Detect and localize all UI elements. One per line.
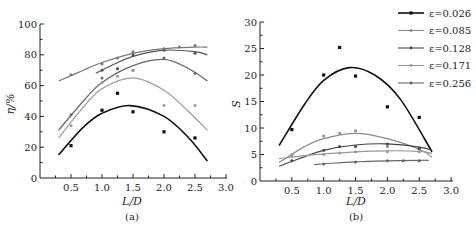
data-point <box>402 159 405 162</box>
legend-item: ε=0.171 <box>398 60 471 71</box>
data-point <box>386 105 389 108</box>
data-point <box>354 74 357 77</box>
legend-label: ε=0.026 <box>429 8 471 19</box>
data-point <box>418 159 421 162</box>
data-point <box>101 76 104 79</box>
data-point <box>101 63 104 66</box>
data-point <box>101 69 104 72</box>
data-point <box>338 151 341 154</box>
x-tick-label: 1.0 <box>94 182 110 193</box>
chart-b-panel-label: (b) <box>349 211 363 222</box>
series-0.256 <box>314 159 429 165</box>
x-tick-label: 2.5 <box>187 182 203 193</box>
chart-a: 0.51.01.52.02.53.0020406080100 <box>18 19 234 194</box>
legend-item: ε=0.085 <box>398 25 471 36</box>
legend-label: ε=0.256 <box>429 78 471 89</box>
data-point <box>322 163 325 166</box>
y-tick-label: 15 <box>244 96 257 107</box>
data-point <box>322 153 325 156</box>
y-tick-label: 30 <box>244 17 257 28</box>
data-point <box>354 129 357 132</box>
x-tick-label: 1.5 <box>125 182 141 193</box>
data-point <box>322 73 325 76</box>
data-point <box>132 69 135 72</box>
chart-a-xlabel: L/D <box>121 195 142 208</box>
data-point <box>116 92 119 95</box>
y-tick-label: 100 <box>18 19 37 30</box>
data-point <box>354 150 357 153</box>
data-point <box>132 50 135 53</box>
data-point <box>116 75 119 78</box>
data-point <box>386 150 389 153</box>
series-0.026 <box>279 46 432 152</box>
chart-b: 0.51.01.52.02.53.0051015202530 <box>244 17 459 197</box>
y-tick-label: 25 <box>244 43 257 54</box>
data-point <box>131 110 134 113</box>
data-point <box>101 81 104 84</box>
data-point <box>194 44 197 47</box>
data-point <box>194 72 197 75</box>
fit-curve <box>59 106 208 162</box>
x-tick-label: 2.5 <box>411 185 427 196</box>
data-point <box>69 144 72 147</box>
data-point <box>194 104 197 107</box>
data-point <box>70 124 73 127</box>
data-point <box>162 130 165 133</box>
y-tick-label: 5 <box>251 149 257 160</box>
series-0.026 <box>59 92 208 161</box>
data-point <box>386 145 389 148</box>
data-point <box>290 128 293 131</box>
series-0.085 <box>59 56 208 130</box>
x-tick-label: 2.0 <box>156 182 172 193</box>
data-point <box>322 134 325 137</box>
data-point <box>116 67 119 70</box>
y-tick-label: 40 <box>24 111 37 122</box>
figure: 0.51.01.52.02.53.0020406080100 0.51.01.5… <box>0 0 476 232</box>
legend-label: ε=0.128 <box>429 43 471 54</box>
y-tick-label: 80 <box>24 49 37 60</box>
chart-a-ylabel: η/% <box>4 94 17 115</box>
fit-curve <box>279 67 432 151</box>
y-tick-label: 60 <box>24 80 37 91</box>
series-0.256 <box>59 44 208 81</box>
x-tick-label: 3.0 <box>218 182 234 193</box>
legend: ε=0.026ε=0.085ε=0.128ε=0.171ε=0.256 <box>398 8 471 89</box>
data-point <box>163 104 166 107</box>
data-point <box>418 116 421 119</box>
data-point <box>338 132 341 135</box>
fit-curve <box>314 160 429 164</box>
data-point <box>70 73 73 76</box>
data-point <box>163 56 166 59</box>
data-point <box>354 145 357 148</box>
data-point <box>290 153 293 156</box>
legend-item: ε=0.026 <box>398 8 471 19</box>
y-tick-label: 20 <box>24 142 37 153</box>
data-point <box>386 159 389 162</box>
data-point <box>322 149 325 152</box>
data-point <box>100 109 103 112</box>
data-point <box>418 147 421 150</box>
x-tick-label: 1.0 <box>316 185 332 196</box>
data-point <box>386 142 389 145</box>
legend-label: ε=0.085 <box>429 25 471 36</box>
data-point <box>193 136 196 139</box>
data-point <box>338 145 341 148</box>
chart-b-xlabel: L/D <box>345 195 366 208</box>
data-point <box>354 160 357 163</box>
chart-a-panel-label: (a) <box>125 211 139 222</box>
y-tick-label: 10 <box>244 123 257 134</box>
y-tick-label: 0 <box>251 176 257 187</box>
data-point <box>418 150 421 153</box>
x-tick-label: 0.5 <box>63 182 79 193</box>
y-tick-label: 20 <box>244 70 257 81</box>
x-tick-label: 3.0 <box>443 185 459 196</box>
data-point <box>338 46 341 49</box>
data-point <box>116 56 119 59</box>
x-tick-label: 0.5 <box>284 185 300 196</box>
chart-b-ylabel: S <box>230 100 243 108</box>
y-tick-label: 0 <box>31 173 37 184</box>
data-point <box>178 46 181 49</box>
data-point <box>194 52 197 55</box>
legend-item: ε=0.128 <box>398 43 471 54</box>
data-point <box>163 47 166 50</box>
